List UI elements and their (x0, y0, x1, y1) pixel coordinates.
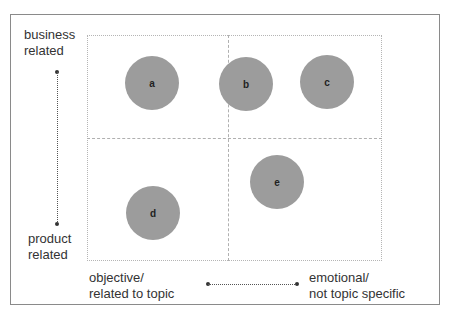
bubble-e: e (250, 155, 304, 209)
bubble-b-label: b (243, 79, 249, 90)
y-axis-bottom-label: product related (28, 231, 71, 263)
bubble-c: c (300, 55, 354, 109)
bubble-a: a (125, 56, 179, 110)
y-axis-top-label-line2: related (24, 43, 75, 59)
bubble-e-label: e (274, 177, 280, 188)
y-axis-line (57, 72, 58, 224)
x-axis-arrow-right-icon (295, 282, 299, 286)
y-axis-arrow-bottom-icon (55, 222, 59, 226)
bubble-c-label: c (324, 77, 330, 88)
y-axis-bottom-label-line2: related (28, 247, 71, 263)
horizontal-divider (87, 138, 382, 139)
y-axis-top-label: business related (24, 27, 75, 59)
bubble-d-label: d (150, 208, 156, 219)
y-axis-top-label-line1: business (24, 27, 75, 43)
bubble-b: b (219, 57, 273, 111)
bubble-d: d (126, 186, 180, 240)
x-axis-left-label: objective/ related to topic (89, 270, 174, 302)
x-axis-right-label: emotional/ not topic specific (309, 270, 405, 302)
bubble-a-label: a (149, 78, 155, 89)
x-axis-right-label-line2: not topic specific (309, 286, 405, 302)
y-axis-bottom-label-line1: product (28, 231, 71, 247)
x-axis-right-label-line1: emotional/ (309, 270, 405, 286)
x-axis-left-label-line2: related to topic (89, 286, 174, 302)
x-axis-line (208, 284, 297, 285)
x-axis-left-label-line1: objective/ (89, 270, 174, 286)
